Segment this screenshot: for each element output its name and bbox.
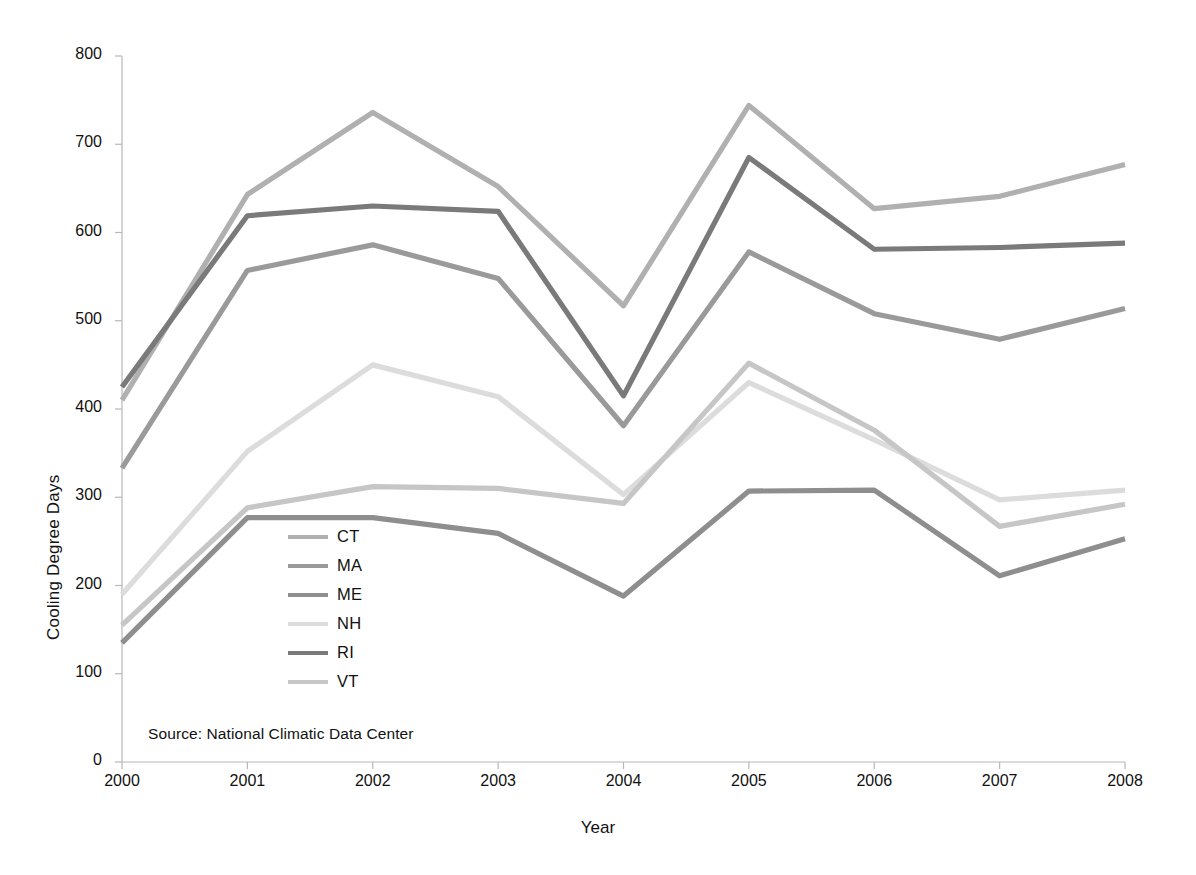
y-tick-label: 400 xyxy=(48,398,102,416)
plot-area xyxy=(0,0,1196,875)
source-annotation: Source: National Climatic Data Center xyxy=(148,725,414,743)
legend-label: VT xyxy=(337,672,359,691)
x-axis-title: Year xyxy=(0,818,1196,838)
legend-label: RI xyxy=(337,643,354,662)
legend: CTMAMENHRIVT xyxy=(288,522,438,696)
legend-swatch-icon xyxy=(288,535,328,539)
cooling-degree-days-chart: Cooling Degree Days Year 010020030040050… xyxy=(0,0,1196,875)
legend-label: NH xyxy=(337,614,361,633)
legend-swatch-icon xyxy=(288,651,328,655)
x-tick-label: 2002 xyxy=(338,772,408,790)
y-tick-label: 800 xyxy=(48,45,102,63)
series-line-ri xyxy=(122,157,1125,395)
y-tick-label: 700 xyxy=(48,133,102,151)
legend-item-nh[interactable]: NH xyxy=(288,609,438,638)
y-tick-label: 600 xyxy=(48,222,102,240)
legend-label: CT xyxy=(337,527,360,546)
y-tick-label: 300 xyxy=(48,486,102,504)
y-tick-label: 0 xyxy=(48,751,102,769)
x-tick-label: 2004 xyxy=(589,772,659,790)
legend-swatch-icon xyxy=(288,593,328,597)
legend-label: ME xyxy=(337,585,362,604)
y-tick-label: 100 xyxy=(48,663,102,681)
legend-label: MA xyxy=(337,556,362,575)
legend-item-ma[interactable]: MA xyxy=(288,551,438,580)
x-tick-label: 2001 xyxy=(212,772,282,790)
y-tick-label: 500 xyxy=(48,310,102,328)
legend-swatch-icon xyxy=(288,680,328,684)
x-tick-label: 2007 xyxy=(965,772,1035,790)
y-tick-label: 200 xyxy=(48,575,102,593)
x-tick-label: 2006 xyxy=(839,772,909,790)
legend-swatch-icon xyxy=(288,564,328,568)
series-line-me xyxy=(122,490,1125,643)
legend-item-ct[interactable]: CT xyxy=(288,522,438,551)
series-line-ct xyxy=(122,105,1125,400)
x-tick-label: 2005 xyxy=(714,772,784,790)
legend-item-vt[interactable]: VT xyxy=(288,667,438,696)
legend-swatch-icon xyxy=(288,622,328,626)
x-tick-label: 2000 xyxy=(87,772,157,790)
legend-item-ri[interactable]: RI xyxy=(288,638,438,667)
x-tick-label: 2003 xyxy=(463,772,533,790)
legend-item-me[interactable]: ME xyxy=(288,580,438,609)
x-tick-label: 2008 xyxy=(1090,772,1160,790)
